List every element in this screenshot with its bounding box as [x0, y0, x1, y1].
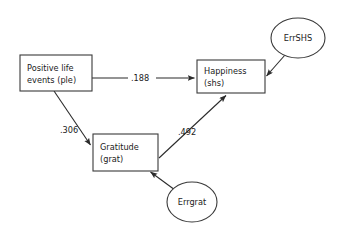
- path-diagram-canvas: Positive life events (ple) Gratitude (gr…: [0, 0, 347, 235]
- node-shs-box[interactable]: [197, 60, 265, 93]
- node-ple-label-line1: Positive life: [27, 63, 74, 73]
- node-grat[interactable]: Gratitude (grat): [93, 134, 158, 171]
- node-shs-label-line2: (shs): [204, 78, 224, 88]
- coefficient-ple-to-grat: .306: [60, 125, 78, 135]
- node-shs-label-line1: Happiness: [204, 66, 247, 76]
- node-ple[interactable]: Positive life events (ple): [20, 55, 92, 91]
- node-shs[interactable]: Happiness (shs): [197, 60, 265, 93]
- node-errshs-label: ErrSHS: [284, 33, 312, 43]
- node-ple-label-line2: events (ple): [27, 75, 76, 85]
- edge-errgrat-to-grat: [151, 172, 176, 190]
- node-errgrat-label: Errgrat: [178, 197, 207, 207]
- edge-ple-to-grat: [54, 91, 91, 145]
- edge-errshs-to-shs: [267, 55, 286, 76]
- path-diagram-svg: Positive life events (ple) Gratitude (gr…: [0, 0, 347, 235]
- coefficient-grat-to-shs: .492: [178, 127, 196, 137]
- edge-errgrat-to-grat-line: [151, 172, 176, 190]
- node-errshs[interactable]: ErrSHS: [271, 18, 325, 58]
- edge-errshs-to-shs-line: [267, 55, 286, 76]
- node-grat-label-line1: Gratitude: [100, 142, 139, 152]
- node-errgrat[interactable]: Errgrat: [167, 182, 217, 222]
- node-grat-label-line2: (grat): [100, 154, 123, 164]
- edge-ple-to-grat-line: [54, 91, 91, 145]
- node-grat-box[interactable]: [93, 134, 158, 171]
- coefficient-ple-to-shs: .188: [131, 73, 149, 83]
- node-ple-box[interactable]: [20, 55, 92, 91]
